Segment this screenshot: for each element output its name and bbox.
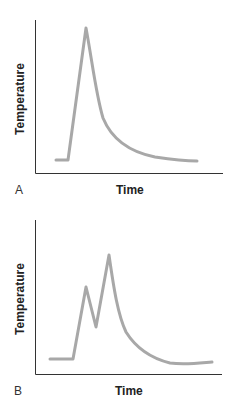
chart-panel-a: Temperature Time A xyxy=(0,0,246,200)
y-axis-label: Temperature xyxy=(13,254,27,344)
y-axis-label: Temperature xyxy=(13,54,27,144)
x-axis-label: Time xyxy=(115,384,143,398)
chart-a-plot xyxy=(0,0,246,200)
chart-b-plot xyxy=(0,200,246,405)
panel-letter: B xyxy=(14,384,22,398)
temperature-curve xyxy=(56,28,197,161)
panel-letter: A xyxy=(15,183,23,197)
temperature-curve xyxy=(50,255,212,364)
chart-panel-b: Temperature Time B xyxy=(0,200,246,405)
x-axis-label: Time xyxy=(116,183,144,197)
